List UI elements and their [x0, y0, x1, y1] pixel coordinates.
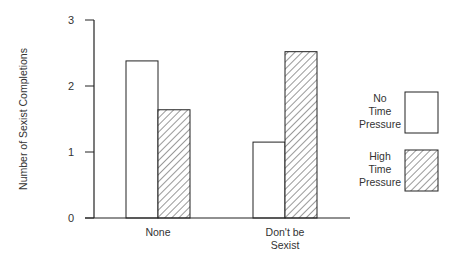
y-axis: 0123: [68, 14, 94, 224]
y-tick-label: 1: [68, 146, 74, 158]
bar-no-time-pressure: [126, 61, 158, 218]
legend-label: Time: [369, 105, 392, 117]
x-category-label: Don't be: [266, 226, 305, 238]
x-category-label: None: [145, 226, 170, 238]
y-axis-title: Number of Sexist Completions: [17, 48, 29, 190]
bar-chart: 0123 NoneDon't beSexist NoTimePressureHi…: [0, 0, 457, 264]
legend-label: Pressure: [359, 118, 401, 130]
x-axis: NoneDon't beSexist: [85, 218, 350, 251]
bar-high-time-pressure: [158, 110, 190, 218]
legend-label: Pressure: [359, 176, 401, 188]
legend-swatch: [405, 92, 438, 133]
legend-label: High: [369, 150, 391, 162]
bar-high-time-pressure: [285, 52, 317, 218]
bars: [126, 52, 317, 218]
legend-swatch: [405, 150, 438, 191]
y-tick-label: 3: [68, 14, 74, 26]
legend-label: Time: [369, 163, 392, 175]
legend-label: No: [373, 92, 387, 104]
bar-no-time-pressure: [253, 142, 285, 218]
legend: NoTimePressureHighTimePressure: [359, 92, 438, 191]
y-tick-label: 2: [68, 80, 74, 92]
x-category-label: Sexist: [271, 239, 300, 251]
y-tick-label: 0: [68, 212, 74, 224]
